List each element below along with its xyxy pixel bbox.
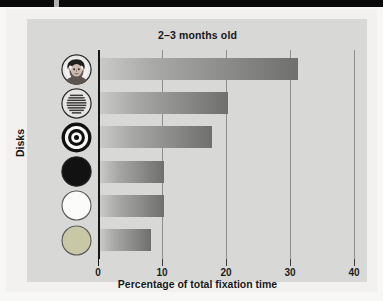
face-disk-icon [61, 54, 92, 85]
chart-title: 2–3 months old [6, 29, 383, 41]
gridline-30 [290, 50, 291, 259]
page-top-black-band [0, 0, 383, 7]
y-axis-label: Disks [14, 113, 26, 173]
bar-face [100, 58, 298, 80]
x-tick-40 [354, 259, 355, 266]
gridline-20 [226, 50, 227, 259]
x-tick-label-10: 10 [142, 267, 182, 278]
x-tick-20 [226, 259, 227, 266]
x-tick-label-0: 0 [78, 267, 118, 278]
white-disk-icon [61, 190, 92, 221]
bar-white [100, 195, 164, 217]
bar-bullseye [100, 126, 212, 148]
page-top-band-notch [54, 0, 59, 7]
x-tick-label-20: 20 [206, 267, 246, 278]
disk-icon-column [61, 53, 95, 258]
newsprint-disk-icon [61, 88, 92, 119]
scanned-page: 2–3 months old Disks [0, 0, 383, 301]
bullseye-disk-icon [61, 122, 92, 153]
bar-yellow [100, 229, 151, 251]
x-tick-10 [162, 259, 163, 266]
x-axis-label: Percentage of total fixation time [6, 278, 383, 290]
plot-area: 010203040 [98, 53, 354, 258]
bar-black [100, 161, 164, 183]
bar-newsprint [100, 92, 228, 114]
black-disk-icon [61, 156, 92, 187]
y-axis-line [98, 50, 100, 259]
yellow-disk-icon [61, 225, 92, 256]
x-tick-0 [98, 259, 99, 266]
figure-card: 2–3 months old Disks [6, 9, 377, 292]
x-tick-label-40: 40 [334, 267, 374, 278]
gridline-40 [354, 50, 355, 259]
x-tick-label-30: 30 [270, 267, 310, 278]
x-tick-30 [290, 259, 291, 266]
gridline-10 [162, 50, 163, 259]
